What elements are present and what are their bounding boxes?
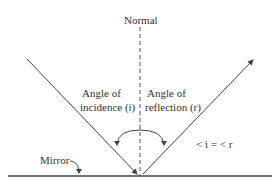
reflection-diagram: Normal Angle of incidence (i) Angle of r…: [0, 0, 278, 187]
mirror-label: Mirror: [40, 154, 70, 166]
reflected-ray: [143, 60, 253, 174]
mirror-pointer-arrow: [70, 161, 79, 170]
incidence-label-line1: Angle of: [82, 87, 121, 99]
incidence-label-line2: incidence (i): [80, 101, 136, 114]
equation-label: < i = < r: [196, 138, 233, 150]
reflection-label-line2: reflection (r): [145, 101, 201, 114]
reflection-label-line1: Angle of: [147, 87, 186, 99]
normal-label: Normal: [124, 14, 158, 26]
